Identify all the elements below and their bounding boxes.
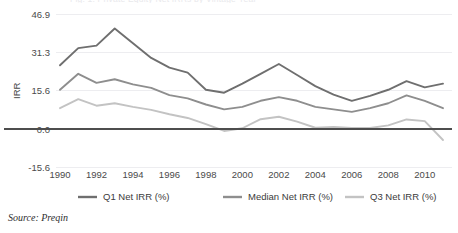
y-tick-label: 15.6 (32, 85, 51, 96)
x-tick-label: 1992 (86, 169, 107, 180)
y-axis-title: IRR (11, 82, 22, 99)
legend-label-q3: Q3 Net IRR (%) (370, 191, 437, 202)
legend-label-q1: Q1 Net IRR (%) (103, 191, 170, 202)
x-tick-label: 2010 (414, 169, 435, 180)
y-axis-tick-labels: -15.60.015.631.346.9 (28, 9, 50, 173)
source-note: Source: Preqin (8, 212, 68, 223)
data-series-group (60, 28, 443, 140)
series-line-q1 (60, 28, 443, 100)
x-axis-tick-labels: 1990199219941996199820002002200420062008… (49, 169, 435, 180)
chart-figure: Fig. 1: Private Equity Net IRRs by Vinta… (0, 0, 458, 233)
chart-legend: Q1 Net IRR (%)Median Net IRR (%)Q3 Net I… (78, 191, 437, 202)
y-tick-label: -15.6 (28, 162, 50, 173)
x-tick-label: 2004 (305, 169, 326, 180)
x-tick-label: 1994 (122, 169, 143, 180)
legend-label-median: Median Net IRR (%) (248, 191, 333, 202)
x-tick-label: 2008 (378, 169, 399, 180)
gridlines-group (56, 14, 452, 167)
x-tick-label: 2000 (232, 169, 253, 180)
chart-title-cropped: Fig. 1: Private Equity Net IRRs by Vinta… (70, 0, 390, 3)
x-tick-label: 2002 (268, 169, 289, 180)
series-line-q3 (60, 99, 443, 140)
x-tick-label: 1990 (49, 169, 70, 180)
x-tick-label: 2006 (341, 169, 362, 180)
x-tick-label: 1998 (195, 169, 216, 180)
line-chart: -15.60.015.631.346.9 1990199219941996199… (0, 0, 458, 210)
y-tick-label: 46.9 (32, 9, 51, 20)
y-tick-label: 31.3 (32, 47, 51, 58)
x-tick-label: 1996 (159, 169, 180, 180)
